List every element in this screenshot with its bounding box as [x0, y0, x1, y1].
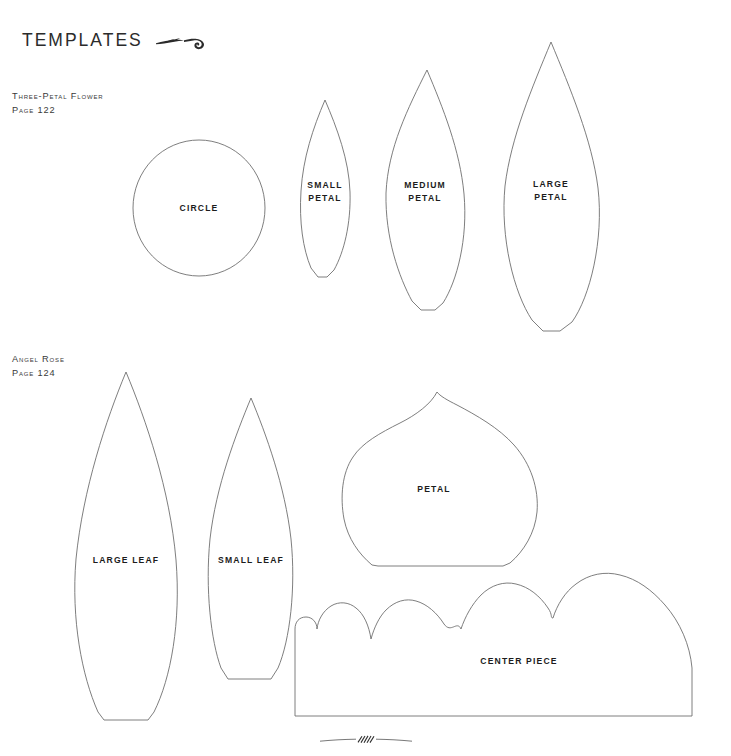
small-wheat-flourish-icon [318, 732, 414, 746]
template-page: TEMPLATES Three-Petal Flower Page 122 An… [0, 0, 731, 756]
shape-large-leaf [75, 372, 178, 720]
shape-small-leaf [208, 398, 293, 679]
shape-petal [342, 392, 537, 566]
shape-center-piece [295, 573, 692, 716]
shape-large-petal [504, 42, 599, 331]
shape-medium-petal [386, 70, 465, 310]
template-shapes-canvas [0, 0, 731, 756]
shape-small-petal [300, 100, 350, 277]
shape-circle [133, 140, 265, 276]
